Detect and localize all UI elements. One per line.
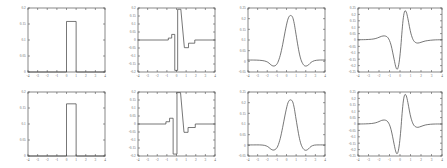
y-tick-label: 0.05 [130,114,136,118]
chart-panel: -4-3-2-10123400.050.10.150.2 [0,84,110,168]
y-tick-label: 0.1 [22,122,27,126]
y-tick-label: 0.2 [352,13,357,17]
x-tick-label: -1 [165,158,168,162]
y-tick-label: 0.15 [130,98,136,102]
x-tick-label: -1 [275,74,278,78]
y-tick-label: 0.1 [132,22,137,26]
y-tick-label: -0.1 [350,51,356,55]
y-tick-label: -0.25 [349,70,356,74]
x-tick-label: -4 [247,158,250,162]
y-tick-label: 0.05 [20,138,26,142]
y-tick-label: 0.2 [242,101,247,105]
x-tick-label: -2 [378,158,381,162]
y-tick-label: 0.2 [352,97,357,101]
x-tick-label: 3 [315,158,317,162]
y-tick-label: 0.2 [242,17,247,21]
y-tick-label: 0 [24,154,26,158]
x-tick-label: 0 [286,158,288,162]
y-tick-label: 0 [354,122,356,126]
y-tick-label: 0.05 [350,32,356,36]
axes-frame [248,92,325,156]
chart-panel: -4-3-2-101234-0.0500.050.10.150.20.25 [220,0,330,84]
x-tick-label: -2 [266,74,269,78]
y-tick-label: -0.2 [350,64,356,68]
x-tick-label: -4 [27,158,30,162]
data-curve [358,94,442,153]
y-tick-label: -0.2 [130,70,136,74]
axes-frame [358,8,442,72]
y-tick-label: -0.15 [349,58,356,62]
y-tick-label: 0.15 [240,112,246,116]
data-curve [138,93,215,154]
x-tick-label: -3 [146,158,149,162]
x-tick-label: 3 [95,74,97,78]
y-tick-label: 0.15 [350,19,356,23]
x-tick-label: 1 [410,158,412,162]
x-tick-label: 4 [441,158,443,162]
y-tick-label: 0 [244,60,246,64]
x-tick-label: -1 [165,74,168,78]
x-tick-label: 2 [195,74,197,78]
y-tick-label: 0.1 [132,106,137,110]
x-tick-label: 2 [305,158,307,162]
x-tick-label: -3 [367,158,370,162]
y-tick-label: 0.05 [350,116,356,120]
x-tick-label: -2 [46,74,49,78]
x-tick-label: 4 [104,158,106,162]
x-tick-label: 0 [176,158,178,162]
x-tick-label: 3 [431,158,433,162]
x-tick-label: 4 [214,74,216,78]
x-tick-label: 1 [75,74,77,78]
chart-panel: -4-3-2-101234-0.2-0.15-0.1-0.0500.050.10… [110,0,220,84]
data-curve [248,100,325,150]
x-tick-label: 0 [66,74,68,78]
x-tick-label: 2 [85,74,87,78]
x-tick-label: -4 [247,74,250,78]
x-tick-label: 4 [214,158,216,162]
y-tick-label: 0.05 [130,30,136,34]
y-tick-label: 0.2 [22,6,27,10]
y-tick-label: 0.2 [132,6,137,10]
x-tick-label: -1 [275,158,278,162]
x-tick-label: 4 [104,74,106,78]
x-tick-label: -2 [378,74,381,78]
x-tick-label: 3 [315,74,317,78]
x-tick-label: 1 [75,158,77,162]
x-tick-label: 1 [295,74,297,78]
y-tick-label: 0.15 [20,106,26,110]
y-tick-label: 0.2 [22,90,27,94]
y-tick-label: 0 [244,144,246,148]
x-tick-label: -1 [55,158,58,162]
x-tick-label: 4 [324,158,326,162]
x-tick-label: -4 [137,74,140,78]
y-tick-label: 0.1 [242,122,247,126]
x-tick-label: 0 [399,74,401,78]
y-tick-label: 0.15 [240,28,246,32]
figure-grid: -4-3-2-10123400.050.10.150.2-4-3-2-10123… [0,0,447,168]
y-tick-label: -0.05 [239,70,246,74]
y-tick-label: 0 [24,70,26,74]
x-tick-label: -1 [388,74,391,78]
y-tick-label: 0.05 [240,133,246,137]
y-tick-label: -0.15 [129,146,136,150]
y-tick-label: 0.25 [240,90,246,94]
y-tick-label: 0.1 [242,38,247,42]
x-tick-label: 0 [176,74,178,78]
y-tick-label: 0.15 [130,14,136,18]
x-tick-label: -4 [137,158,140,162]
y-tick-label: 0 [354,38,356,42]
x-tick-label: 4 [324,74,326,78]
x-tick-label: 1 [295,158,297,162]
x-tick-label: -3 [36,74,39,78]
y-tick-label: -0.05 [349,129,356,133]
y-tick-label: -0.25 [349,154,356,158]
x-tick-label: 1 [410,74,412,78]
x-tick-label: -3 [256,74,259,78]
x-tick-label: 2 [195,158,197,162]
data-curve [358,11,442,69]
data-curve [28,104,105,156]
x-tick-label: -3 [146,74,149,78]
y-tick-label: -0.05 [129,130,136,134]
y-tick-label: -0.2 [130,154,136,158]
data-curve [248,15,325,66]
